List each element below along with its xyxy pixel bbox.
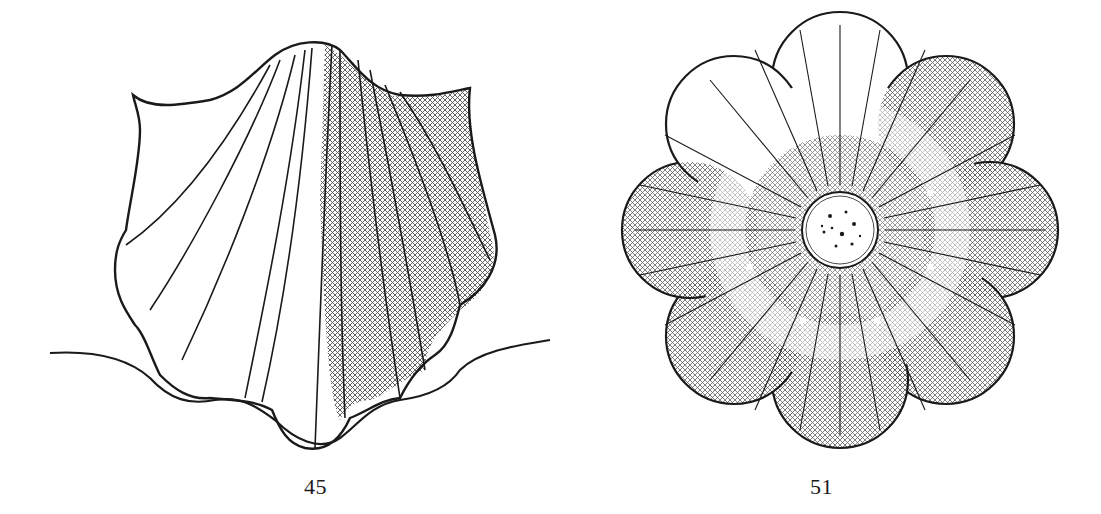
shell-drawing bbox=[40, 0, 600, 470]
central-boss bbox=[802, 192, 878, 268]
figure-51-caption: 51 bbox=[810, 474, 833, 500]
figure-51-rosette-illustration bbox=[610, 0, 1080, 470]
figure-45-caption: 45 bbox=[304, 474, 327, 500]
rosette-drawing bbox=[610, 0, 1080, 470]
figure-45-shell-illustration bbox=[40, 0, 600, 470]
